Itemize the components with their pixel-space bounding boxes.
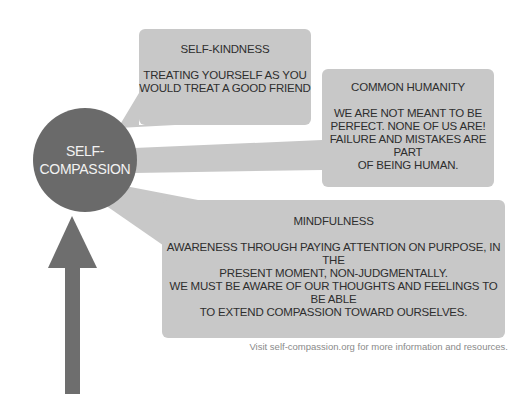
box-title: MINDFULNESS [162, 215, 505, 228]
footer-note: Visit self-compassion.org for more infor… [232, 341, 508, 352]
self-compassion-diagram: SELF- COMPASSION SELF-KINDNESS TREATING … [0, 0, 515, 406]
box-title: SELF-KINDNESS [139, 43, 311, 56]
box-title: COMMON HUMANITY [322, 81, 494, 94]
center-label: SELF- COMPASSION [33, 142, 137, 178]
box-body: WE ARE NOT MEANT TO BE PERFECT. NONE OF … [322, 107, 494, 172]
up-arrow-icon [48, 216, 97, 394]
box-body: AWARENESS THROUGH PAYING ATTENTION ON PU… [162, 241, 505, 319]
mindfulness-box: MINDFULNESS AWARENESS THROUGH PAYING ATT… [162, 215, 505, 319]
self-kindness-box: SELF-KINDNESS TREATING YOURSELF AS YOU W… [139, 43, 311, 95]
box-body: TREATING YOURSELF AS YOU WOULD TREAT A G… [139, 69, 311, 95]
connector-common-humanity [134, 140, 322, 173]
common-humanity-box: COMMON HUMANITY WE ARE NOT MEANT TO BE P… [322, 81, 494, 172]
